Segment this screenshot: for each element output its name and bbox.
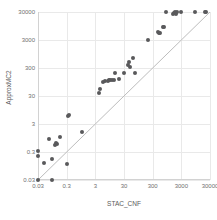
x-tick-label: 30 bbox=[121, 183, 128, 189]
data-point bbox=[127, 60, 131, 64]
data-point bbox=[146, 38, 150, 42]
data-point bbox=[36, 178, 40, 182]
y-tick-label: 30 bbox=[28, 93, 35, 99]
data-point bbox=[193, 10, 197, 14]
y-tick-label: 0.3 bbox=[27, 149, 35, 155]
data-point bbox=[50, 178, 54, 182]
x-tick-label: 300 bbox=[148, 183, 158, 189]
data-point bbox=[113, 71, 117, 75]
x-tick-label: 3 bbox=[94, 183, 97, 189]
data-point bbox=[175, 10, 179, 14]
gridline-vertical bbox=[210, 12, 211, 180]
data-point bbox=[158, 31, 162, 35]
data-point bbox=[55, 142, 59, 146]
data-point bbox=[122, 71, 126, 75]
y-tick-label: 30000 bbox=[18, 9, 35, 15]
reference-line-diagonal bbox=[38, 12, 210, 180]
x-tick-label: 0.3 bbox=[62, 183, 70, 189]
gridline-horizontal bbox=[38, 180, 210, 181]
data-point bbox=[47, 137, 51, 141]
data-point bbox=[50, 157, 54, 161]
x-axis-title: STAC_CNF bbox=[38, 200, 210, 207]
scatter-chart: 0.030.3330300300030000 0.030.33303003000… bbox=[0, 0, 217, 220]
data-point bbox=[131, 56, 135, 60]
y-tick-label: 3 bbox=[32, 121, 35, 127]
data-point bbox=[67, 113, 71, 117]
data-point bbox=[65, 162, 69, 166]
y-axis-title: ApproxMC2 bbox=[5, 58, 12, 118]
x-tick-label: 3000 bbox=[175, 183, 188, 189]
data-point bbox=[36, 154, 40, 158]
x-axis-tick-labels: 0.030.3330300300030000 bbox=[38, 183, 210, 195]
x-tick-label: 30000 bbox=[202, 183, 217, 189]
data-point bbox=[97, 91, 101, 95]
x-tick-label: 0.03 bbox=[32, 183, 44, 189]
y-tick-label: 3000 bbox=[22, 37, 35, 43]
data-point bbox=[112, 78, 116, 82]
y-tick-label: 300 bbox=[25, 65, 35, 71]
plot-area bbox=[38, 12, 210, 180]
